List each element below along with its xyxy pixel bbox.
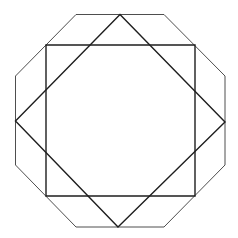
diamond — [16, 15, 226, 228]
octagon — [16, 15, 226, 228]
octagon-square-diagram — [0, 0, 238, 238]
